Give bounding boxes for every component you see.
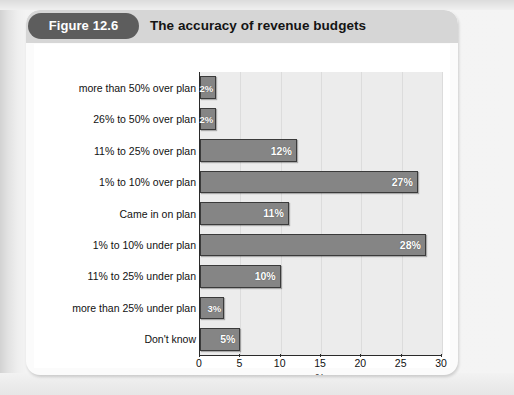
y-axis-category-label: 11% to 25% over plan xyxy=(94,145,196,157)
x-axis-tick-label: 20 xyxy=(354,357,366,369)
y-axis-category-label: more than 50% over plan xyxy=(79,82,196,94)
bar-row: 3% xyxy=(200,297,442,320)
bar-row: 28% xyxy=(200,234,442,257)
bar-value-label: 11% xyxy=(263,207,283,219)
gridline xyxy=(442,72,443,355)
chart-canvas: more than 50% over plan26% to 50% over p… xyxy=(34,44,450,368)
bar-value-label: 5% xyxy=(220,333,235,345)
y-axis-category-label: 1% to 10% under plan xyxy=(93,239,196,251)
bar-row: 12% xyxy=(200,139,442,162)
bar-value-label: 10% xyxy=(255,270,276,282)
figure-card: Figure 12.6 The accuracy of revenue budg… xyxy=(26,10,458,375)
page-background-bottom-edge xyxy=(0,373,514,395)
bar[interactable]: 28% xyxy=(200,234,426,257)
bar-row: 2% xyxy=(200,108,442,131)
y-axis-category-label: more than 25% under plan xyxy=(72,302,196,314)
bar[interactable]: 3% xyxy=(200,297,224,320)
bar[interactable]: 5% xyxy=(200,328,240,351)
bar[interactable]: 27% xyxy=(200,171,418,194)
y-axis-category-label: 11% to 25% under plan xyxy=(88,270,196,282)
bar-row: 5% xyxy=(200,328,442,351)
y-axis-category-label: 26% to 50% over plan xyxy=(93,113,196,125)
bar-value-label: 2% xyxy=(199,114,213,125)
bar-value-label: 27% xyxy=(392,176,413,188)
bar-value-label: 2% xyxy=(199,82,213,93)
bar[interactable]: 12% xyxy=(200,139,297,162)
x-axis-ticks: 051015202530 xyxy=(199,357,441,373)
bar-row: 10% xyxy=(200,265,442,288)
bar-row: 2% xyxy=(200,76,442,99)
x-axis-tick-label: 10 xyxy=(274,357,286,369)
bar-row: 27% xyxy=(200,171,442,194)
bar[interactable]: 10% xyxy=(200,265,281,288)
x-axis-title: % xyxy=(199,372,441,375)
bar[interactable]: 11% xyxy=(200,202,289,225)
y-axis-category-label: Came in on plan xyxy=(120,208,196,220)
bar[interactable]: 2% xyxy=(200,76,216,99)
figure-title: The accuracy of revenue budgets xyxy=(150,13,366,39)
x-axis-tick-label: 5 xyxy=(236,357,242,369)
page-background-top-edge xyxy=(0,0,514,10)
x-axis-tick-label: 0 xyxy=(196,357,202,369)
x-axis-tick-label: 15 xyxy=(314,357,326,369)
bar-value-label: 12% xyxy=(271,145,292,157)
x-axis-tick-label: 30 xyxy=(435,357,447,369)
bar-value-label: 28% xyxy=(400,239,421,251)
y-axis-category-labels: more than 50% over plan26% to 50% over p… xyxy=(34,72,196,355)
bar[interactable]: 2% xyxy=(200,108,216,131)
figure-number-badge: Figure 12.6 xyxy=(28,13,139,39)
y-axis-category-label: Don't know xyxy=(144,333,196,345)
bar-row: 11% xyxy=(200,202,442,225)
bar-value-label: 3% xyxy=(207,302,221,313)
x-axis-tick-label: 25 xyxy=(395,357,407,369)
plot-area: 2%2%12%27%11%28%10%3%5% xyxy=(199,72,442,356)
y-axis-category-label: 1% to 10% over plan xyxy=(99,176,196,188)
